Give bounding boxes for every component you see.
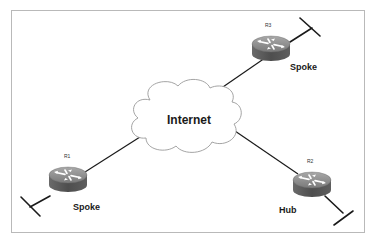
router-r1-name: R1 <box>64 153 70 159</box>
link-r2-internet <box>235 131 298 174</box>
router-r3-role: Spoke <box>290 62 317 72</box>
link-r3-internet <box>220 58 265 89</box>
router-r3-icon <box>252 36 290 61</box>
router-r2-name: R2 <box>307 158 313 164</box>
router-r3-name: R3 <box>265 22 271 28</box>
cloud-label: Internet <box>167 113 211 127</box>
router-r2-icon <box>293 172 331 197</box>
router-r2-role: Hub <box>279 205 297 215</box>
router-r1-role: Spoke <box>73 202 100 212</box>
link-r1-internet <box>85 137 140 172</box>
r3-terminal <box>290 18 320 42</box>
r1-terminal <box>21 196 50 216</box>
router-r1-icon <box>49 167 87 192</box>
r2-terminal <box>325 196 353 225</box>
